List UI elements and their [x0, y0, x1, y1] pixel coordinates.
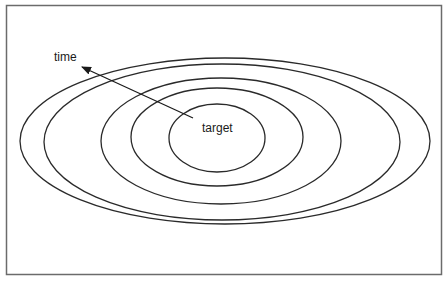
- frame-border: [7, 6, 442, 275]
- time-arrow: [82, 67, 193, 118]
- ring-4-ellipse: [44, 64, 400, 220]
- ring-5-ellipse: [20, 58, 430, 224]
- diagram-canvas: time target: [0, 0, 447, 281]
- ring-3-ellipse: [101, 78, 341, 204]
- concentric-ellipses: [20, 58, 430, 224]
- ring-2-ellipse: [131, 88, 303, 186]
- time-label: time: [54, 50, 77, 64]
- diagram-figure: time target: [0, 0, 447, 281]
- target-label: target: [202, 121, 233, 135]
